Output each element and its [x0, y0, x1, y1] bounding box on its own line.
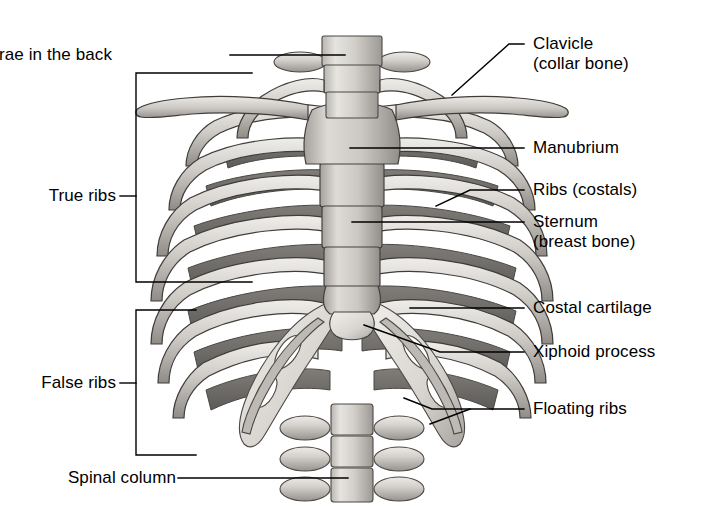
lumbar-vertebrae [280, 404, 424, 502]
label-vertebrae-in-the-back: Vertebrae in the back [0, 45, 112, 65]
label-ribs-costals: Ribs (costals) [533, 180, 637, 200]
rib-cage-diagram: Vertebrae in the back True ribs False ri… [0, 0, 704, 512]
label-clavicle-sub: (collar bone) [533, 54, 629, 74]
label-xiphoid-process: Xiphoid process [533, 342, 655, 362]
label-sternum: Sternum [533, 212, 598, 232]
label-clavicle: Clavicle [533, 34, 593, 54]
label-costal-cartilage: Costal cartilage [533, 298, 652, 318]
diagram-canvas [0, 0, 704, 512]
label-spinal-column: Spinal column [68, 468, 176, 488]
label-sternum-sub: (breast bone) [533, 232, 635, 252]
label-floating-ribs: Floating ribs [533, 399, 627, 419]
ribcage-illustration [136, 36, 568, 502]
label-false-ribs: False ribs [41, 373, 116, 393]
label-true-ribs: True ribs [49, 186, 116, 206]
label-manubrium: Manubrium [533, 138, 619, 158]
leader-clavicle [452, 44, 524, 95]
